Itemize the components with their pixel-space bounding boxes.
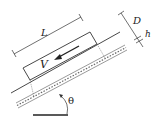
thickness-label: D <box>132 15 141 26</box>
velocity-arrow <box>54 46 79 60</box>
incline-diagram: V L D h θ <box>0 0 159 125</box>
gap-label: h <box>145 29 151 39</box>
velocity-label: V <box>40 58 49 71</box>
length-label: L <box>40 27 48 38</box>
angle-arc <box>61 96 67 114</box>
projection-line-right <box>97 44 105 58</box>
angle-label: θ <box>68 95 74 106</box>
